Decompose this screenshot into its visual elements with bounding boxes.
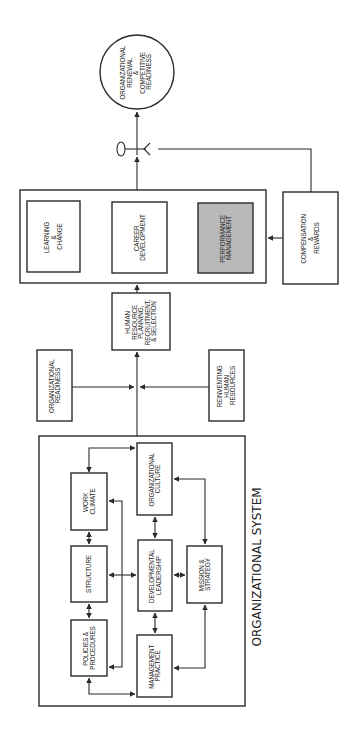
policies-procedures-box: POLICIES & PROCEDURES [71, 620, 107, 676]
reinventing-hr-box: REINVENTING HUMAN RESOURCES [209, 350, 244, 421]
hr-system-diagram: ORGANIZATIONAL RENEWAL & COMPETITIVE REA… [0, 0, 358, 742]
learning-change-box: LEARNING & CHANGE [27, 201, 80, 272]
compensation-rewards-box: COMPENSATION & REWARDS [283, 192, 338, 284]
key-icon [117, 142, 150, 156]
developmental-leadership-box: DEVELOPMENTAL LEADERSHIP [138, 540, 172, 611]
svg-text:WORK CLIMATE: WORK CLIMATE [82, 488, 96, 514]
connector-compensation-to-key [158, 149, 311, 192]
career-development-box: CAREER DEVELOPMENT [112, 202, 167, 273]
svg-text:PERFORMANCE MANAGEMENT: PERFORMANCE MANAGEMENT [219, 213, 233, 263]
outcome-node: ORGANIZATIONAL RENEWAL & COMPETITIVE REA… [100, 35, 174, 109]
structure-box: STRUCTURE [71, 546, 107, 602]
management-practice-box: MANAGEMENT PRACTICE [137, 635, 172, 697]
work-climate-box: WORK CLIMATE [71, 473, 107, 530]
hr-planning-box: HUMAN RESOURCE PLANNING, RECRUITMENT, & … [112, 293, 170, 350]
org-culture-box: ORGANIZATIONAL CULTURE [137, 443, 172, 515]
performance-management-box: PERFORMANCE MANAGEMENT [198, 203, 253, 273]
mission-strategy-box: MISSION & STRATEGY [187, 546, 222, 603]
svg-text:MISSION & STRATEGY: MISSION & STRATEGY [198, 557, 212, 591]
org-system-title: ORGANIZATIONAL SYSTEM [250, 487, 264, 646]
svg-text:POLICIES & PROCEDURES: POLICIES & PROCEDURES [82, 626, 96, 669]
svg-text:DEVELOPMENTAL LEADERSHIP: DEVELOPMENTAL LEADERSHIP [148, 548, 162, 603]
outcome-line-5: READINESS [145, 54, 152, 90]
org-readiness-box: ORGANIZATIONAL READINESS [37, 350, 72, 421]
svg-text:STRUCTURE: STRUCTURE [85, 555, 92, 593]
